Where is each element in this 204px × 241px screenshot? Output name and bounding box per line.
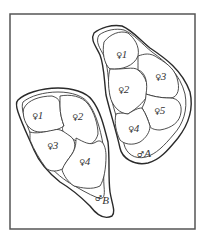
territory-b-female-1: [23, 96, 64, 132]
territory-b-male-label: ♂B: [95, 194, 109, 206]
territory-a-male-label: ♂A: [137, 147, 151, 159]
territory-diagram: ♀1 ♀2 ♀3 ♀4 ♀5 ♂A ♀1 ♀2 ♀3 ♀4 ♂B: [0, 0, 204, 241]
male-territory-b: ♀1 ♀2 ♀3 ♀4 ♂B: [17, 88, 114, 217]
